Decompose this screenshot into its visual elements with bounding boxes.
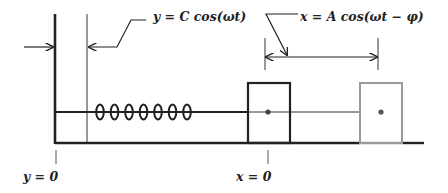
base-label-leader xyxy=(89,20,146,47)
base-origin-label: y = 0 xyxy=(23,171,58,184)
mass-motion-label: x = A cos(ωt − φ) xyxy=(300,11,424,24)
mass-origin-label: x = 0 xyxy=(236,171,271,184)
base-motion-label: y = C cos(ωt) xyxy=(153,11,246,24)
mass-displaced-center-dot xyxy=(378,109,383,114)
spring-mass-diagram xyxy=(0,0,448,193)
mass-label-leader xyxy=(266,14,298,55)
mass-equilibrium-center-dot xyxy=(265,109,270,114)
